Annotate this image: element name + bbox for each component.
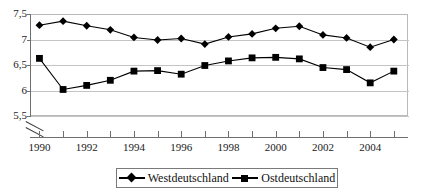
x-axis-tick-label: 1998 [208,141,248,153]
x-axis-tick-mark [370,131,371,137]
x-axis-tick-mark [87,131,88,137]
gridline [31,116,409,117]
gridline [31,65,409,66]
y-axis-tick-mark [27,116,31,117]
legend-item-westdeutschland[interactable]: Westdeutschland [119,172,229,185]
axis-break-icon [26,118,48,134]
x-axis-tick-label: 2002 [303,141,343,153]
x-axis-tick-label: 1992 [67,141,107,153]
x-axis-line [30,137,408,138]
x-axis-tick-mark [252,131,253,137]
square-marker-icon [232,172,258,184]
x-axis-tick-mark [394,131,395,137]
x-axis-tick-label: 2000 [256,141,296,153]
x-axis-tick-mark [134,131,135,137]
y-axis-tick-label: 5,5 [1,110,27,121]
x-axis-tick-label: 1994 [114,141,154,153]
legend-label: Westdeutschland [148,172,229,185]
x-axis-tick-label: 2004 [350,141,390,153]
gridline [31,91,409,92]
y-axis-tick-mark [27,91,31,92]
y-axis-tick-mark [27,65,31,66]
y-axis-tick-mark [27,40,31,41]
x-axis-tick-mark [347,131,348,137]
x-axis-tick-mark [110,131,111,137]
x-axis-tick-mark [276,131,277,137]
x-axis-tick-mark [323,131,324,137]
x-axis-tick-mark [181,131,182,137]
x-axis-tick-mark [158,131,159,137]
y-axis-tick-label: 6 [1,85,27,96]
x-axis-tick-mark [39,131,40,137]
x-axis-tick-label: 1996 [161,141,201,153]
y-axis-tick-mark [27,14,31,15]
x-axis-tick-label: 1990 [19,141,59,153]
legend-label: Ostdeutschland [261,172,335,185]
x-axis-tick-mark [63,131,64,137]
x-axis-tick-mark [228,131,229,137]
chart-container: 5,566,577,5 Westdeutschland Ostdeutschla… [0,0,421,195]
legend-item-ostdeutschland[interactable]: Ostdeutschland [232,172,335,185]
diamond-marker-icon [119,172,145,184]
y-axis-tick-label: 7 [1,34,27,45]
y-axis-tick-label: 6,5 [1,59,27,70]
y-axis-labels: 5,566,577,5 [0,0,27,195]
gridline [31,40,409,41]
x-axis-tick-mark [299,131,300,137]
chart-legend: Westdeutschland Ostdeutschland [116,168,338,188]
y-axis-tick-label: 7,5 [1,8,27,19]
x-axis-tick-mark [205,131,206,137]
plot-area [30,14,408,116]
